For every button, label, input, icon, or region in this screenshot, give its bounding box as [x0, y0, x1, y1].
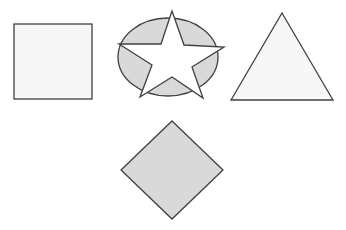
- shapes-canvas: [0, 0, 346, 230]
- square-shape: [14, 24, 92, 99]
